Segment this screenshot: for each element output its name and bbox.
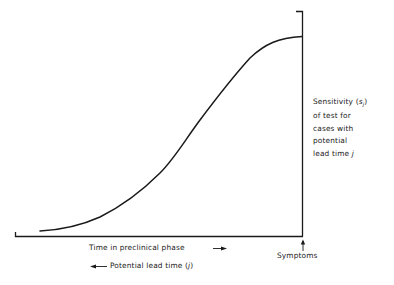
time-preclinical-label: Time in preclinical phase (89, 243, 185, 252)
x-axis-label-forward: Time in preclinical phase (89, 242, 185, 254)
potential-lead-time-label: Potential lead time ( (110, 261, 188, 270)
y-label-line-4: potential (313, 135, 367, 147)
y-label-suffix: ) (364, 97, 367, 106)
y-label-line-3: cases with (313, 123, 367, 135)
y-label-line-5: lead time j (313, 148, 367, 160)
x-axis (16, 232, 304, 237)
symptoms-label: Symptoms (277, 250, 318, 262)
y-label-line-5-text: lead time (313, 149, 352, 158)
sensitivity-curve (40, 37, 302, 232)
symptoms-vertical-line (296, 12, 303, 237)
j-symbol: j (352, 149, 354, 158)
right-arrow-icon (213, 247, 227, 251)
x-axis-label-backward: Potential lead time (j) (88, 260, 193, 272)
y-label-prefix: Sensitivity ( (313, 97, 359, 106)
close-paren: ) (190, 261, 193, 270)
y-label-line-2: of test for (313, 110, 367, 122)
y-label-line-1: Sensitivity (sj) (313, 96, 367, 110)
y-axis-label: Sensitivity (sj) of test for cases with … (313, 96, 367, 160)
